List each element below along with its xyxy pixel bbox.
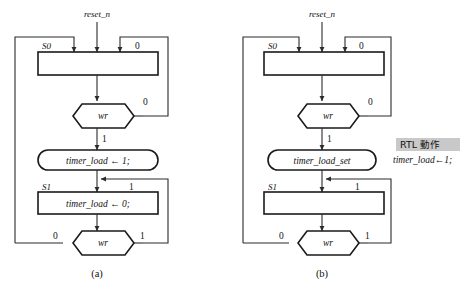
decision-wr-top-label-b: wr — [323, 111, 333, 121]
state-label-s0-a: S0 — [42, 41, 52, 51]
edge-label-s0-right-a: 0 — [135, 41, 140, 51]
state-label-s0-b: S0 — [268, 41, 278, 51]
edge-label-wr-bottom-right-a: 1 — [140, 231, 145, 241]
state-machine-diagram: reset_n S0 0 wr 0 1 timer_load ← 1; — [0, 0, 466, 297]
panel-b: reset_n S0 0 wr 0 1 timer_load_set — [243, 9, 460, 280]
edge-label-wr-top-down-a: 1 — [102, 134, 107, 144]
caption-a: (a) — [91, 268, 103, 280]
rtl-annotation-body: timer_load←1; — [393, 155, 452, 165]
edge-label-s1-right-b: 1 — [355, 182, 360, 192]
caption-b: (b) — [316, 268, 329, 280]
state-box-s1-body-a: timer_load ← 0; — [66, 199, 130, 209]
edge-label-wr-top-right-b: 0 — [368, 97, 373, 107]
decision-wr-top-label-a: wr — [98, 111, 108, 121]
edge-label-wr-top-right-a: 0 — [143, 97, 148, 107]
panel-a: reset_n S0 0 wr 0 1 timer_load ← 1; — [15, 9, 168, 280]
state-label-s1-a: S1 — [42, 182, 51, 192]
state-label-s1-b: S1 — [268, 182, 277, 192]
edge-label-wr-top-down-b: 1 — [327, 134, 332, 144]
edge-label-s0-right-b: 0 — [359, 41, 364, 51]
edge-label-wr-bottom-left-b: 0 — [279, 231, 284, 241]
state-box-s1-b — [264, 192, 384, 214]
decision-wr-bottom-label-a: wr — [98, 238, 108, 248]
action-box-label-b: timer_load_set — [294, 156, 351, 166]
edge-label-s1-right-a: 1 — [129, 182, 134, 192]
edge-label-wr-bottom-left-a: 0 — [53, 231, 58, 241]
state-box-s0-a — [38, 52, 158, 75]
figure-canvas: reset_n S0 0 wr 0 1 timer_load ← 1; — [0, 0, 466, 297]
state-box-s0-b — [264, 52, 384, 75]
reset-signal-label-a: reset_n — [84, 9, 111, 19]
edge-label-wr-bottom-right-b: 1 — [365, 231, 370, 241]
decision-wr-bottom-label-b: wr — [323, 238, 333, 248]
reset-signal-label-b: reset_n — [309, 9, 336, 19]
action-box-label-a: timer_load ← 1; — [66, 156, 130, 166]
rtl-annotation-title: RTL 動作 — [400, 139, 440, 150]
